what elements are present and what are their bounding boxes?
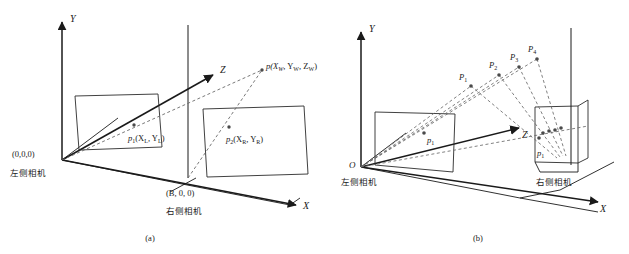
panel-b-left-image-plane: [375, 112, 455, 172]
panel-a: Y X Z: [10, 13, 317, 243]
panel-a-origin-label: (0,0,0): [12, 149, 35, 159]
panel-a-world-point-label: p(XW, YW, ZW): [265, 61, 317, 72]
panel-b-world-point-1-label: P1: [458, 72, 467, 83]
panel-a-x-axis: [62, 160, 296, 205]
panel-a-left-camera-label: 左侧相机: [10, 168, 46, 178]
panel-b-world-point-3: [517, 65, 521, 69]
panel-a-x-axis-label: X: [302, 200, 310, 211]
panel-a-baseline-origin-label: (B, 0, 0): [166, 188, 195, 198]
panel-a-caption: (a): [145, 233, 155, 243]
panel-a-z-axis-label: Z: [220, 64, 226, 75]
panel-b-right-projection-label: p1: [536, 148, 544, 159]
panel-a-z-axis: [62, 75, 213, 160]
panel-b-world-point-2-label: P2: [488, 60, 497, 71]
panel-b-left-projection-label: p1: [426, 135, 434, 146]
panel-a-world-point-marker: [260, 68, 263, 71]
panel-b: Y X Z: [341, 23, 614, 243]
panel-b-left-camera-label: 左侧相机: [341, 177, 377, 187]
panel-b-right-rays: [471, 59, 566, 158]
panel-a-right-projection-label: p2(XR, YR): [225, 134, 263, 145]
panel-b-world-point-4: [535, 57, 539, 61]
panel-b-z-axis-label: Z: [522, 129, 528, 140]
panel-b-right-camera-label: 右侧相机: [536, 177, 572, 187]
panel-a-y-axis-label: Y: [70, 13, 77, 24]
panel-b-world-point-3-label: P3: [509, 52, 518, 63]
panel-a-right-camera-label: 右侧相机: [166, 206, 202, 216]
panel-b-x-axis-label: X: [599, 203, 607, 214]
panel-b-z-axis: [361, 128, 519, 167]
panel-a-right-projection-point: [227, 125, 230, 128]
panel-b-world-point-1: [469, 84, 473, 88]
panel-b-world-point-2: [497, 73, 501, 77]
panel-b-origin-label: O: [349, 160, 356, 170]
stereo-vision-figure: Y X Z: [0, 0, 629, 254]
panel-a-left-projection-point: [132, 123, 135, 126]
panel-b-caption: (b): [473, 233, 483, 243]
panel-b-world-point-4-label: P4: [527, 44, 536, 55]
panel-b-left-projection-point: [422, 131, 426, 135]
panel-b-right-camera-base: [535, 162, 578, 172]
panel-b-y-axis-label: Y: [369, 23, 376, 34]
panel-a-left-projection-label: p1(XL, YL): [127, 133, 165, 144]
